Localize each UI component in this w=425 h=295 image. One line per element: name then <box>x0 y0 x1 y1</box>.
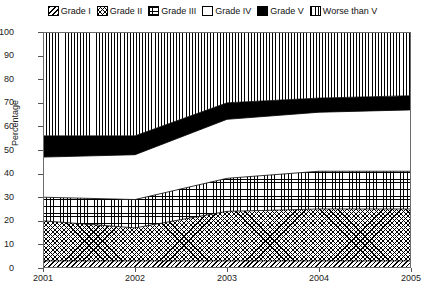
y-axis-tick-mark <box>38 79 43 80</box>
legend-swatch-icon <box>48 6 59 16</box>
y-axis-tick-label: 10 <box>0 240 14 249</box>
y-axis-tick-label: 20 <box>0 216 14 225</box>
x-axis-tick-label: 2005 <box>391 274 425 283</box>
legend-item-grade-iii[interactable]: Grade III <box>148 6 196 16</box>
y-axis-tick-mark <box>38 56 43 57</box>
y-axis-tick-mark <box>38 221 43 222</box>
legend-item-label: Grade IV <box>215 6 251 16</box>
y-axis-tick-label: 60 <box>0 122 14 131</box>
legend-item-label: Worse than V <box>323 6 377 16</box>
x-axis-tick-mark <box>411 268 412 272</box>
y-axis-tick-label: 30 <box>0 193 14 202</box>
x-axis-tick-mark <box>227 268 228 272</box>
y-axis-tick-label: 70 <box>0 98 14 107</box>
stacked-area-chart: Grade IGrade IIGrade IIIGrade IVGrade VW… <box>0 0 425 295</box>
legend-item-worse-than-v[interactable]: Worse than V <box>310 6 377 16</box>
y-axis-tick-label: 100 <box>0 28 14 37</box>
y-axis-tick-label: 80 <box>0 75 14 84</box>
x-axis-tick-mark <box>43 268 44 272</box>
legend-item-grade-v[interactable]: Grade V <box>257 6 304 16</box>
y-axis-tick-mark <box>38 32 43 33</box>
y-axis-tick-mark <box>38 103 43 104</box>
y-axis-tick-mark <box>38 150 43 151</box>
legend-swatch-icon <box>97 6 108 16</box>
legend-swatch-icon <box>202 6 213 16</box>
x-axis-tick-label: 2001 <box>23 274 63 283</box>
plot-frame-border <box>43 32 411 268</box>
x-axis-tick-label: 2002 <box>115 274 155 283</box>
y-axis-tick-mark <box>38 174 43 175</box>
legend-item-label: Grade III <box>161 6 196 16</box>
x-axis-tick-label: 2004 <box>299 274 339 283</box>
legend-item-label: Grade I <box>61 6 91 16</box>
y-axis-tick-label: 0 <box>0 264 14 273</box>
legend-swatch-icon <box>257 6 268 16</box>
y-axis-tick-mark <box>38 126 43 127</box>
legend-item-label: Grade II <box>110 6 143 16</box>
chart-legend: Grade IGrade IIGrade IIIGrade IVGrade VW… <box>0 4 425 18</box>
y-axis-tick-mark <box>38 244 43 245</box>
legend-swatch-icon <box>148 6 159 16</box>
legend-item-grade-ii[interactable]: Grade II <box>97 6 143 16</box>
legend-item-grade-iv[interactable]: Grade IV <box>202 6 251 16</box>
y-axis-tick-label: 50 <box>0 146 14 155</box>
y-axis-tick-label: 40 <box>0 169 14 178</box>
y-axis-tick-mark <box>38 197 43 198</box>
legend-swatch-icon <box>310 6 321 16</box>
x-axis-tick-mark <box>319 268 320 272</box>
legend-item-label: Grade V <box>270 6 304 16</box>
x-axis-tick-mark <box>135 268 136 272</box>
y-axis-tick-label: 90 <box>0 51 14 60</box>
plot-area <box>43 32 411 268</box>
x-axis-tick-label: 2003 <box>207 274 247 283</box>
legend-item-grade-i[interactable]: Grade I <box>48 6 91 16</box>
